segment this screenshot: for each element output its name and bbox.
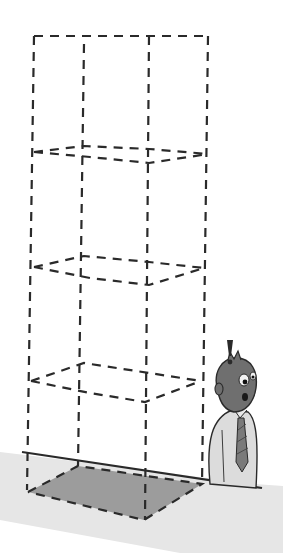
open-mouth	[242, 393, 248, 401]
shelf-level-2	[34, 256, 204, 285]
shirt	[209, 410, 257, 488]
surprised-man	[209, 351, 257, 488]
shelf-level-3	[31, 363, 201, 402]
tower-illustration	[0, 0, 283, 553]
shelf-level-1	[34, 146, 208, 163]
tower-verticals	[27, 36, 208, 520]
